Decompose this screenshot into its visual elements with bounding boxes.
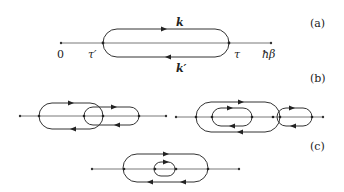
panel-b-right-diagram: [175, 100, 324, 135]
panel-b-left-diagram: [19, 101, 167, 132]
hbar-beta-label: ħβ: [262, 48, 275, 61]
k-label: k: [176, 16, 184, 29]
axis-start-label: 0: [57, 48, 64, 61]
panel-label-b: (b): [310, 72, 326, 85]
tau-prime-label: τ′: [88, 48, 97, 61]
k-prime-label: k′: [176, 62, 187, 75]
arrow-right-icon: [161, 27, 167, 32]
panel-label-a: (a): [310, 17, 325, 30]
panel-label-c: (c): [310, 140, 325, 153]
panel-c: (c): [91, 140, 325, 185]
panel-b: (b): [19, 72, 326, 135]
feynman-diagram-figure: 0 τ′ τ ħβ k k′ (a) (b): [0, 0, 344, 192]
arrow-left-icon: [165, 55, 171, 60]
panel-a: 0 τ′ τ ħβ k k′ (a): [57, 16, 325, 75]
tau-label: τ: [234, 48, 241, 61]
